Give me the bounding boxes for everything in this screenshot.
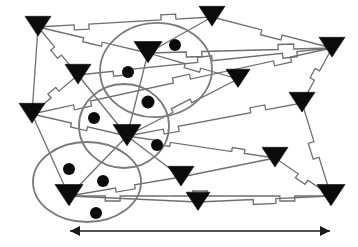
graph-edge <box>38 27 148 53</box>
graph-edge <box>78 48 332 76</box>
graph-edge <box>181 158 275 177</box>
down-triangle-node <box>289 92 315 112</box>
graph-edge <box>212 17 332 48</box>
graph-edge <box>32 27 38 114</box>
down-triangle-node <box>113 125 141 146</box>
filled-circle-marker <box>97 175 109 187</box>
filled-circle-marker <box>63 163 75 175</box>
down-triangle-node <box>226 69 250 87</box>
arrow-head-left <box>70 226 80 236</box>
cluster-ellipse <box>97 19 215 121</box>
down-triangle-node <box>55 185 83 206</box>
filled-circle-marker <box>88 112 100 124</box>
filled-circle-marker <box>151 139 163 151</box>
graph-edge <box>127 103 302 136</box>
filled-circle-marker <box>90 207 102 219</box>
filled-circle-marker <box>142 96 155 109</box>
network-diagram <box>0 0 358 247</box>
down-triangle-node <box>19 103 45 123</box>
filled-circle-marker <box>122 66 134 78</box>
arrow-head-right <box>320 226 330 236</box>
graph-edge <box>32 114 69 196</box>
graph-edge <box>127 53 148 136</box>
graph-edge <box>127 136 275 158</box>
diagram-canvas <box>0 0 358 247</box>
node-layer <box>19 6 345 210</box>
filled-circle-marker <box>169 39 181 51</box>
cluster-ellipse <box>33 142 141 222</box>
down-triangle-node <box>317 185 345 206</box>
down-triangle-node <box>199 6 225 26</box>
down-triangle-node <box>168 166 194 186</box>
graph-edge <box>38 14 212 30</box>
down-triangle-node <box>319 37 345 57</box>
graph-edge <box>69 177 181 196</box>
scale-bar-layer <box>70 226 330 236</box>
graph-edge <box>198 196 331 205</box>
